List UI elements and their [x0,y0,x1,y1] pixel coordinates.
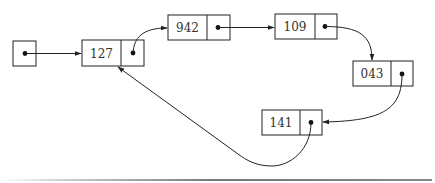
bottom-rule [0,179,432,181]
node-value: 043 [361,67,384,81]
node-value: 127 [90,47,113,61]
node-value: 942 [176,21,199,35]
linked-list-diagram: 127 942 109 043 141 [0,0,435,183]
node-value: 141 [270,116,293,130]
node-value: 109 [284,20,307,34]
node-141: 141 [262,110,322,135]
node-043: 043 [353,61,413,86]
